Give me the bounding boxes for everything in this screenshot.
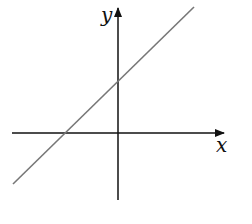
y-axis-label: y <box>100 3 113 27</box>
coordinate-plane: y x <box>0 0 252 224</box>
x-axis-label: x <box>216 133 227 157</box>
graph-line <box>13 7 194 184</box>
